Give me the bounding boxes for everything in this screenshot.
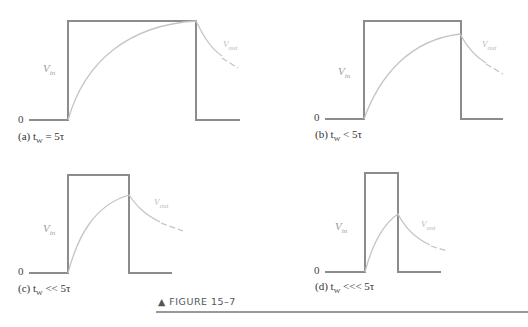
panel-b-output-curve bbox=[364, 34, 486, 119]
panel-b-vout-label: Vout bbox=[482, 39, 496, 52]
panel-a-caption: (a) tW = 5τ bbox=[18, 130, 64, 145]
panel-d-output-decay-dash bbox=[431, 246, 447, 251]
panel-c-vin-label: Vin bbox=[43, 222, 55, 237]
panel-c-output-decay-dash bbox=[161, 223, 183, 231]
panel-a-vout-label: Vout bbox=[223, 39, 237, 52]
panel-d-zero-label: 0 bbox=[314, 264, 320, 276]
panel-c-caption: (c) tW << 5τ bbox=[18, 282, 70, 297]
panel-b-output-decay-dash bbox=[486, 64, 503, 74]
panel-a-output-curve bbox=[68, 21, 222, 120]
panel-a-output-decay-dash bbox=[222, 58, 238, 68]
panel-d-caption: (d) tW <<< 5τ bbox=[315, 280, 374, 295]
panel-c-output-curve bbox=[68, 195, 160, 273]
figure-caption: ▲ FIGURE 15–7 bbox=[158, 296, 236, 307]
panel-b-vin-label: Vin bbox=[338, 65, 350, 80]
panel-b-zero-label: 0 bbox=[314, 111, 320, 123]
panel-d-vin-label: Vin bbox=[335, 220, 347, 235]
panel-c-vout-label: Vout bbox=[154, 197, 168, 210]
panel-b-waveforms bbox=[325, 21, 503, 119]
panel-b-input-pulse bbox=[325, 21, 503, 119]
waveform-diagram bbox=[0, 0, 528, 327]
panel-b-caption: (b) tW < 5τ bbox=[315, 128, 362, 143]
figure-rule-divider bbox=[156, 311, 528, 313]
panel-a-waveforms bbox=[29, 21, 240, 120]
panel-a-zero-label: 0 bbox=[18, 113, 24, 125]
panel-a-vin-label: Vin bbox=[43, 62, 55, 77]
panel-c-zero-label: 0 bbox=[18, 265, 24, 277]
panel-d-vout-label: Vout bbox=[421, 219, 435, 232]
